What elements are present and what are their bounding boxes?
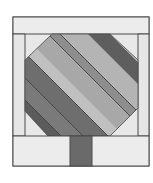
right-strip — [138, 34, 149, 136]
tree-trunk — [70, 136, 92, 166]
left-strip — [13, 34, 25, 136]
quilt-block-diagram — [0, 0, 153, 183]
top-band — [13, 17, 149, 34]
